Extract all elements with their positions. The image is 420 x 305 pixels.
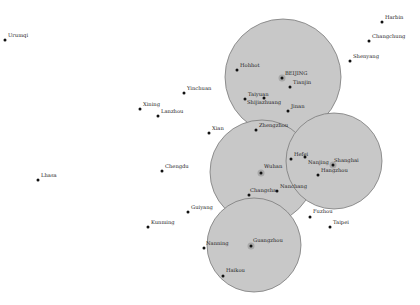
city-urumqi[interactable]: Urumqi xyxy=(4,32,29,42)
city-label: Haikou xyxy=(226,267,246,273)
city-harbin[interactable]: Harbin xyxy=(381,14,405,24)
city-lhasa[interactable]: Lhasa xyxy=(37,172,57,182)
city-dot-icon xyxy=(161,170,164,173)
city-dot-icon xyxy=(187,211,190,214)
city-label: Urumqi xyxy=(8,32,28,39)
city-label: Lanzhou xyxy=(161,108,184,114)
city-shenyang[interactable]: Shenyang xyxy=(349,53,380,63)
city-xining[interactable]: Xining xyxy=(139,101,161,111)
city-label: Shenyang xyxy=(353,53,380,60)
city-label: Chengdu xyxy=(165,163,189,170)
city-label: Xian xyxy=(212,125,224,131)
city-taipei[interactable]: Taipei xyxy=(329,219,350,229)
city-dot-icon xyxy=(250,245,253,248)
city-dot-icon xyxy=(260,172,263,175)
city-dot-icon xyxy=(329,226,332,229)
city-changchung[interactable]: Changchung xyxy=(368,33,406,43)
city-chengdu[interactable]: Chengdu xyxy=(161,163,190,173)
city-dot-icon xyxy=(289,86,292,89)
city-label: Tianjin xyxy=(293,79,312,86)
city-dot-icon xyxy=(183,92,186,95)
city-label: Guiyang xyxy=(191,204,214,211)
city-yinchuan[interactable]: Yinchuan xyxy=(183,85,213,95)
city-label: Yinchuan xyxy=(186,85,212,91)
city-label: Shanghai xyxy=(334,157,359,164)
city-dot-icon xyxy=(290,158,293,161)
city-label: Fuzhou xyxy=(313,208,333,214)
city-dot-icon xyxy=(157,115,160,118)
city-dot-icon xyxy=(147,226,150,229)
city-dot-icon xyxy=(37,179,40,182)
city-dot-icon xyxy=(4,39,7,42)
city-fuzhou[interactable]: Fuzhou xyxy=(309,208,334,219)
city-label: Kunming xyxy=(151,219,175,226)
city-dot-icon xyxy=(317,174,320,177)
city-label: Shijiazhuang xyxy=(247,99,282,106)
city-label: Nanning xyxy=(206,240,229,247)
city-label: Hangzhou xyxy=(321,167,348,174)
city-dot-icon xyxy=(368,40,371,43)
city-xian[interactable]: Xian xyxy=(208,125,225,135)
city-label: Lhasa xyxy=(41,172,57,178)
city-dot-icon xyxy=(281,77,284,80)
city-dot-icon xyxy=(208,132,211,135)
city-guiyang[interactable]: Guiyang xyxy=(187,204,214,214)
city-label: Xining xyxy=(143,101,161,108)
city-label: Taiyuan xyxy=(248,91,269,98)
city-dot-icon xyxy=(139,108,142,111)
city-label: Nanchang xyxy=(280,183,308,190)
city-dot-icon xyxy=(236,69,239,72)
city-label: Changchung xyxy=(372,33,406,40)
city-label: Taipei xyxy=(333,219,349,226)
city-label: Nanjing xyxy=(308,159,330,166)
city-dot-icon xyxy=(309,216,312,219)
city-lanzhou[interactable]: Lanzhou xyxy=(157,108,185,118)
city-label: Guangzhou xyxy=(253,237,283,244)
city-dot-icon xyxy=(381,21,384,24)
city-dot-icon xyxy=(287,110,290,113)
city-dot-icon xyxy=(304,156,307,159)
china-city-map[interactable]: UrumqiHarbinChangchungShenyangHohhotBEIJ… xyxy=(0,0,420,305)
city-kunming[interactable]: Kunming xyxy=(147,219,176,229)
city-dot-icon xyxy=(248,194,251,197)
city-dot-icon xyxy=(222,275,225,278)
city-label: Jinan xyxy=(290,103,305,110)
city-label: Harbin xyxy=(385,14,404,20)
city-label: Changsha xyxy=(250,187,276,194)
city-dot-icon xyxy=(349,60,352,63)
city-label: Zhengzhou xyxy=(259,122,289,129)
city-label: Hohhot xyxy=(240,62,260,68)
city-label: Hefei xyxy=(294,151,309,157)
city-label: Wuhan xyxy=(264,163,283,169)
city-dot-icon xyxy=(203,247,206,250)
city-dot-icon xyxy=(255,129,258,132)
city-label: BEIJING xyxy=(285,70,307,77)
